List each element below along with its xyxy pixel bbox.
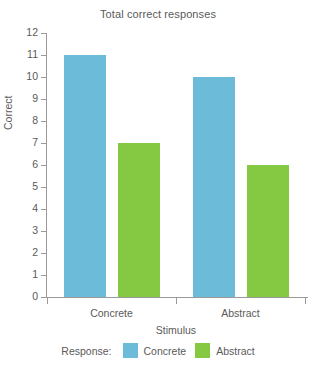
y-axis-tick-label: 11 xyxy=(14,49,38,61)
x-axis-line xyxy=(46,297,308,298)
y-axis-tick-label: 0 xyxy=(14,291,38,303)
y-axis-tick-label-text: 11 xyxy=(16,49,38,60)
y-axis-tick-label: 12 xyxy=(14,27,38,39)
y-axis-tick-label-text: 6 xyxy=(16,159,38,170)
legend-label-concrete: Concrete xyxy=(144,345,187,357)
y-axis-tick-label-text: 0 xyxy=(16,291,38,302)
legend-swatch-concrete xyxy=(123,343,138,358)
legend-item-abstract[interactable]: Abstract xyxy=(195,343,255,358)
x-axis-tick xyxy=(305,298,306,304)
y-axis-tick-label-text: 7 xyxy=(16,137,38,148)
y-axis-tick-label: 7 xyxy=(14,137,38,149)
bar xyxy=(64,55,106,297)
y-axis-tick xyxy=(41,253,46,254)
y-axis-tick-label: 1 xyxy=(14,269,38,281)
y-axis-tick-label: 4 xyxy=(14,203,38,215)
x-axis-tick xyxy=(176,298,177,304)
y-axis-tick-label-text: 5 xyxy=(16,181,38,192)
y-axis-tick-label-text: 10 xyxy=(16,71,38,82)
legend-title: Response: xyxy=(61,345,111,357)
y-axis-tick-label: 6 xyxy=(14,159,38,171)
y-axis-tick xyxy=(41,297,46,298)
y-axis-tick xyxy=(41,231,46,232)
legend-swatch-abstract xyxy=(195,343,210,358)
x-axis-category-label: Abstract xyxy=(196,307,286,319)
plot-area xyxy=(47,33,305,297)
x-axis-category-label: Concrete xyxy=(67,307,157,319)
y-axis-tick xyxy=(41,77,46,78)
bar xyxy=(118,143,160,297)
y-axis-tick-label: 9 xyxy=(14,93,38,105)
y-axis-tick-label-text: 3 xyxy=(16,225,38,236)
bar xyxy=(193,77,235,297)
y-axis-tick-label-text: 2 xyxy=(16,247,38,258)
y-axis-tick-label: 8 xyxy=(14,115,38,127)
y-axis-tick-label: 5 xyxy=(14,181,38,193)
y-axis-tick-label-text: 4 xyxy=(16,203,38,214)
chart-title: Total correct responses xyxy=(0,8,316,20)
y-axis-tick-label-text: 9 xyxy=(16,93,38,104)
y-axis-tick-label-text: 1 xyxy=(16,269,38,280)
x-axis-tick xyxy=(47,298,48,304)
x-axis-label: Stimulus xyxy=(47,324,305,336)
y-axis-tick-label-text: 8 xyxy=(16,115,38,126)
y-axis-tick-label: 2 xyxy=(14,247,38,259)
y-axis-tick xyxy=(41,99,46,100)
y-axis-tick xyxy=(41,33,46,34)
y-axis-tick xyxy=(41,275,46,276)
y-axis-tick xyxy=(41,165,46,166)
legend-label-abstract: Abstract xyxy=(216,345,255,357)
chart-legend: Response: Concrete Abstract xyxy=(0,343,316,358)
y-axis-tick-label: 3 xyxy=(14,225,38,237)
y-axis-tick xyxy=(41,209,46,210)
y-axis-tick-label-text: 12 xyxy=(16,27,38,38)
bar xyxy=(247,165,289,297)
y-axis-tick xyxy=(41,121,46,122)
y-axis-tick xyxy=(41,143,46,144)
y-axis-tick xyxy=(41,55,46,56)
legend-item-concrete[interactable]: Concrete xyxy=(123,343,187,358)
y-axis-tick xyxy=(41,187,46,188)
y-axis-tick-label: 10 xyxy=(14,71,38,83)
y-axis-label: Correct xyxy=(2,96,14,130)
